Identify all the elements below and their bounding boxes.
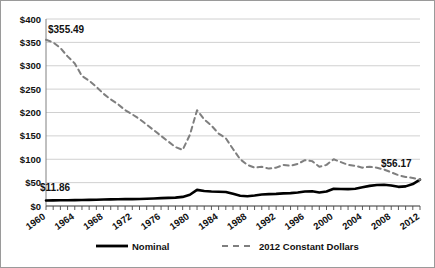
x-tick-label: 1988 (225, 211, 249, 232)
x-tick-label: 1992 (254, 211, 278, 232)
y-tick-label: $350 (20, 37, 41, 48)
x-tick-label: 1984 (196, 210, 220, 232)
annotation-label: $11.86 (40, 182, 70, 193)
y-tick-label: $50 (25, 177, 41, 188)
data-series-group (46, 40, 420, 201)
y-tick-label: $0 (30, 201, 41, 212)
x-tick-label: 2004 (340, 210, 364, 232)
x-axis (46, 19, 420, 210)
y-tick-label: $400 (20, 14, 41, 25)
x-tick-label: 1960 (24, 211, 48, 232)
y-tick-label: $200 (20, 107, 41, 118)
annotation-label: $56.17 (381, 158, 412, 169)
gridlines (46, 19, 420, 206)
x-tick-label: 2000 (311, 211, 335, 232)
y-axis-tick-labels: $0$50$100$150$200$250$300$350$400 (20, 14, 41, 212)
x-tick-label: 1964 (52, 210, 76, 232)
x-axis-tick-labels: 1960196419681972197619801984198819921996… (24, 210, 422, 232)
legend-label-constant-dollars: 2012 Constant Dollars (259, 241, 359, 252)
chart-frame: $0$50$100$150$200$250$300$350$400 196019… (0, 0, 435, 268)
y-tick-label: $100 (20, 154, 41, 165)
y-tick-label: $300 (20, 60, 41, 71)
x-tick-label: 2012 (398, 211, 422, 232)
series-line-2012-constant-dollars (46, 40, 420, 180)
line-chart: $0$50$100$150$200$250$300$350$400 196019… (1, 1, 435, 268)
legend-label-nominal: Nominal (132, 241, 169, 252)
data-annotations: $355.49$11.86$56.17 (40, 24, 412, 193)
x-tick-label: 1976 (139, 211, 163, 232)
y-tick-label: $150 (20, 130, 41, 141)
x-tick-label: 1980 (167, 211, 191, 232)
x-tick-label: 1968 (81, 211, 105, 232)
x-tick-label: 1996 (282, 211, 306, 232)
annotation-label: $355.49 (48, 24, 85, 35)
y-tick-label: $250 (20, 84, 41, 95)
x-tick-label: 1972 (110, 211, 134, 232)
x-tick-label: 2008 (369, 211, 393, 232)
chart-legend: Nominal2012 Constant Dollars (96, 241, 359, 252)
